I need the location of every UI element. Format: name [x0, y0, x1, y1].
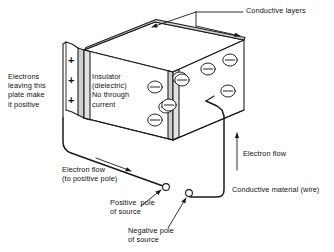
negative-pole-leader — [168, 198, 186, 228]
electron-symbol — [148, 81, 162, 93]
label-electron-flow-left: Electron flow (to positive pole) — [62, 165, 117, 183]
electron-symbol — [162, 99, 176, 111]
electron-symbol — [201, 63, 215, 75]
electron-symbol — [221, 85, 235, 97]
positive-charge-sign: + — [68, 76, 75, 85]
label-electrons-leaving: Electrons leaving this plate make it pos… — [8, 72, 46, 109]
label-conductive-layers: Conductive layers — [246, 6, 306, 15]
label-insulator-dielectric: Insulator (dielectric) No through curren… — [92, 72, 129, 109]
label-negative-pole: Negative pole of source — [128, 226, 174, 244]
negative-pole-marker — [186, 190, 193, 197]
label-electron-flow-right: Electron flow — [243, 149, 286, 158]
label-positive-pole: Positive pole of source — [110, 198, 155, 216]
positive-charge-sign: + — [68, 96, 75, 105]
positive-pole-marker — [163, 184, 170, 191]
conductive-layer-left — [78, 48, 84, 118]
electron-symbol — [223, 54, 237, 66]
label-conductive-material: Conductive material (wire) — [232, 185, 319, 194]
diagram-canvas — [0, 0, 334, 252]
electron-symbol — [148, 114, 162, 126]
electron-symbol — [175, 74, 189, 86]
positive-charge-sign: + — [68, 56, 75, 65]
capacitor-diagram: + + + Conductive layers Electrons leavin… — [0, 0, 334, 252]
